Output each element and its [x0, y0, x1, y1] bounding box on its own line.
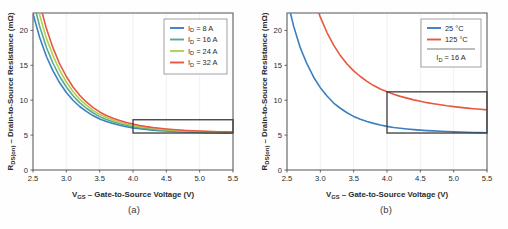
x-axis-title-rest: – Gate-to-Source Voltage (V)	[86, 190, 195, 199]
x-tick-label: 5.5	[482, 174, 493, 183]
x-tick-label: 4.5	[161, 174, 172, 183]
legend-label-rest: = 32 A	[194, 58, 217, 67]
x-tick-label: 3.5	[94, 174, 105, 183]
y-axis-title-rest: – Drain-to-Source Resistance (mΩ)	[6, 12, 15, 145]
y-tick-label: 10	[20, 96, 28, 105]
chart-svg-a: 2.53.03.54.04.55.05.505101520VGS – Gate-…	[0, 0, 254, 210]
y-tick-label: 15	[20, 61, 28, 70]
x-tick-label: 2.5	[28, 174, 39, 183]
panel-caption-a: (a)	[0, 204, 254, 215]
legend-label-rest: = 16 A	[194, 35, 217, 44]
legend-label-rest: = 8 A	[194, 24, 213, 33]
y-tick-label: 15	[274, 61, 282, 70]
y-tick-label: 20	[274, 26, 282, 35]
x-tick-label: 3.0	[61, 174, 72, 183]
x-tick-label: 4.5	[415, 174, 426, 183]
legend-label-rest: = 24 A	[194, 47, 217, 56]
plot-a: 2.53.03.54.04.55.05.505101520VGS – Gate-…	[6, 0, 238, 200]
y-tick-label: 0	[278, 166, 282, 175]
y-axis-title-sub: DS(on)	[10, 146, 16, 165]
x-tick-label: 5.0	[448, 174, 459, 183]
y-axis-title-rest: – Drain-to-Source Resistance (mΩ)	[260, 12, 269, 145]
x-tick-label: 5.0	[194, 174, 205, 183]
legend-label: 125 °C	[445, 35, 468, 44]
x-tick-label: 4.0	[382, 174, 393, 183]
y-axis-title-sub: DS(on)	[264, 146, 270, 165]
x-axis-title-sub: GS	[331, 194, 340, 200]
legend-label-main: 25 °C	[445, 24, 464, 33]
y-tick-label: 20	[20, 26, 28, 35]
plot-b: 2.53.03.54.04.55.05.505101520VGS – Gate-…	[260, 0, 492, 200]
y-tick-label: 5	[24, 131, 28, 140]
x-tick-label: 3.0	[315, 174, 326, 183]
x-axis-title: VGS – Gate-to-Source Voltage (V)	[72, 190, 195, 200]
panel-caption-b: (b)	[254, 204, 508, 215]
y-axis-title: RDS(on) – Drain-to-Source Resistance (mΩ…	[6, 12, 16, 170]
x-tick-label: 4.0	[128, 174, 139, 183]
chart-panel-a: 2.53.03.54.04.55.05.505101520VGS – Gate-…	[0, 0, 254, 229]
chart-panel-b: 2.53.03.54.04.55.05.505101520VGS – Gate-…	[254, 0, 508, 229]
x-tick-label: 2.5	[282, 174, 293, 183]
legend-note-rest: = 16 A	[442, 53, 465, 62]
y-axis-title: RDS(on) – Drain-to-Source Resistance (mΩ…	[260, 12, 270, 170]
chart-svg-b: 2.53.03.54.04.55.05.505101520VGS – Gate-…	[254, 0, 508, 210]
x-tick-label: 3.5	[348, 174, 359, 183]
x-axis-title-rest: – Gate-to-Source Voltage (V)	[340, 190, 449, 199]
y-tick-label: 10	[274, 96, 282, 105]
legend-a-b: ID = 8 AID = 16 AID = 24 AID = 32 A	[164, 19, 227, 74]
figure-container: 2.53.03.54.04.55.05.505101520VGS – Gate-…	[0, 0, 508, 229]
y-tick-label: 5	[278, 131, 282, 140]
x-axis-title-sub: GS	[77, 194, 86, 200]
y-tick-label: 0	[24, 166, 28, 175]
legend-a-b: 25 °C125 °CID = 16 A	[421, 19, 481, 67]
legend-label: 25 °C	[445, 24, 464, 33]
legend-label-main: 125 °C	[445, 35, 468, 44]
x-axis-title: VGS – Gate-to-Source Voltage (V)	[326, 190, 449, 200]
x-tick-label: 5.5	[228, 174, 239, 183]
